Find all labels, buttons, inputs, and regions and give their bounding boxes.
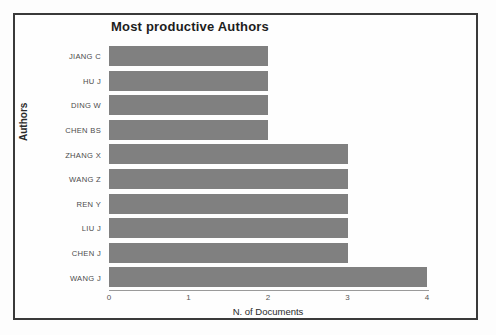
bar-ding-w	[109, 95, 268, 115]
bar-ren-y	[109, 194, 348, 214]
y-tick-label: CHEN J	[72, 249, 101, 258]
chart-frame: Most productive Authors Authors JIANG C …	[13, 13, 478, 320]
y-tick-label: ZHANG X	[65, 150, 101, 159]
y-tick-label: CHEN BS	[65, 126, 101, 135]
x-tick-label: 4	[425, 293, 429, 302]
x-tick-label: 0	[107, 293, 111, 302]
y-axis-title: Authors	[18, 103, 29, 141]
y-tick-label: REN Y	[76, 199, 101, 208]
bar-row: JIANG C	[109, 44, 427, 69]
x-tick-label: 3	[345, 293, 349, 302]
x-axis-title: N. of Documents	[109, 306, 427, 317]
y-tick-label: WANG J	[70, 273, 101, 282]
bar-hu-j	[109, 71, 268, 91]
x-axis-line	[109, 290, 429, 291]
bar-row: WANG J	[109, 265, 427, 290]
bar-row: HU J	[109, 69, 427, 94]
y-tick-label: JIANG C	[69, 52, 101, 61]
bar-liu-j	[109, 218, 348, 238]
bar-chen-j	[109, 243, 348, 263]
bar-row: LIU J	[109, 216, 427, 241]
bar-zhang-x	[109, 144, 348, 164]
bar-row: DING W	[109, 93, 427, 118]
plot-area: JIANG C HU J DING W CHEN BS ZHANG X WANG…	[109, 44, 427, 290]
y-tick-label: WANG Z	[69, 175, 101, 184]
bar-chen-bs	[109, 120, 268, 140]
bar-row: REN Y	[109, 192, 427, 217]
bar-row: WANG Z	[109, 167, 427, 192]
y-tick-label: DING W	[71, 101, 101, 110]
bar-wang-j	[109, 267, 427, 287]
bar-row: CHEN J	[109, 241, 427, 266]
y-tick-label: LIU J	[82, 224, 101, 233]
x-tick-label: 2	[266, 293, 270, 302]
chart-title: Most productive Authors	[75, 19, 305, 34]
y-tick-label: HU J	[83, 76, 101, 85]
bar-wang-z	[109, 169, 348, 189]
bar-row: CHEN BS	[109, 118, 427, 143]
x-axis-ticks: 0 1 2 3 4	[109, 293, 427, 307]
bar-jiang-c	[109, 46, 268, 66]
x-tick-label: 1	[186, 293, 190, 302]
bar-row: ZHANG X	[109, 142, 427, 167]
